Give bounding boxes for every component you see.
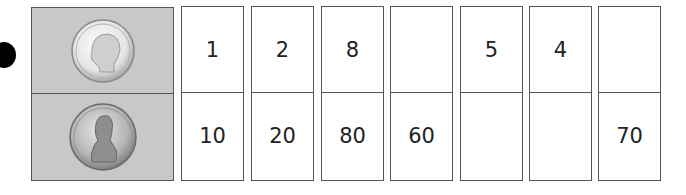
pennies-cell: 70 [599, 93, 660, 178]
table-column: 5 [460, 6, 523, 181]
coin-panel [31, 7, 174, 181]
table-column: 70 [598, 6, 661, 181]
pennies-cell: 60 [391, 93, 452, 178]
pennies-cell[interactable] [530, 93, 591, 178]
bullet-marker [0, 42, 16, 68]
dime-icon [70, 18, 136, 84]
table-column: 8 80 [321, 6, 384, 181]
dimes-cell: 1 [182, 7, 243, 93]
pennies-cell[interactable] [461, 93, 522, 178]
dimes-cell[interactable] [391, 7, 452, 93]
penny-cell [32, 94, 173, 179]
dimes-cell: 2 [252, 7, 313, 93]
pennies-cell: 10 [182, 93, 243, 178]
dimes-cell: 8 [322, 7, 383, 93]
dimes-cell: 4 [530, 7, 591, 93]
table-column: 1 10 [181, 6, 244, 181]
table-column: 4 [529, 6, 592, 181]
penny-icon [68, 102, 138, 172]
dimes-cell[interactable] [599, 7, 660, 93]
dimes-cell: 5 [461, 7, 522, 93]
pennies-cell: 20 [252, 93, 313, 178]
table-column: 2 20 [251, 6, 314, 181]
dime-cell [32, 8, 173, 94]
table-column: 60 [390, 6, 453, 181]
pennies-cell: 80 [322, 93, 383, 178]
